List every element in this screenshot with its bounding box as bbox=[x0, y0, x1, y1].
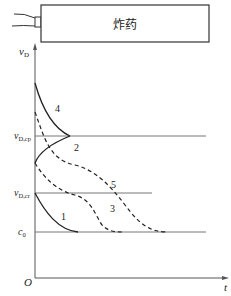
x-axis-label: t bbox=[224, 281, 228, 293]
curve-label-5: 5 bbox=[111, 179, 116, 190]
curve-1 bbox=[35, 193, 78, 232]
detonation-velocity-diagram: 炸药 vD t O vD,cp vD,cr c0 4 2 5 3 1 bbox=[0, 0, 231, 296]
x-axis bbox=[35, 276, 229, 280]
curve-5 bbox=[35, 112, 168, 232]
curve-label-4: 4 bbox=[55, 103, 60, 114]
curve-3 bbox=[35, 163, 123, 232]
curve-label-2: 2 bbox=[74, 142, 79, 153]
level-label-vd-cp: vD,cp bbox=[14, 130, 31, 142]
detonator-icon bbox=[12, 14, 41, 27]
y-axis-label: vD bbox=[19, 45, 29, 59]
curve-label-1: 1 bbox=[61, 211, 66, 222]
level-label-vd-cr: vD,cr bbox=[14, 187, 31, 199]
curve-2 bbox=[35, 136, 70, 163]
curve-label-3: 3 bbox=[110, 203, 115, 214]
level-label-c0: c0 bbox=[18, 226, 26, 238]
origin-label: O bbox=[24, 276, 32, 288]
explosive-label: 炸药 bbox=[113, 18, 137, 32]
